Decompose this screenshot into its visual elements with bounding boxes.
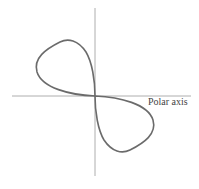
upper-left-loop xyxy=(36,40,95,96)
lower-right-loop xyxy=(95,96,154,152)
polar-diagram xyxy=(0,0,199,189)
polar-axis-label: Polar axis xyxy=(148,96,188,107)
